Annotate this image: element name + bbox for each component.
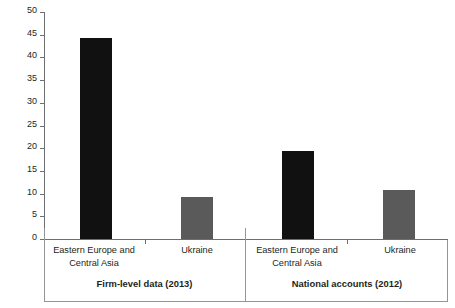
bar-firm-level-eastern-europe-central-asia	[80, 38, 112, 239]
plot-area: 50 45 40 35 30 25 20 15 10 5 0	[44, 12, 448, 240]
y-tick-50: 50	[40, 12, 44, 13]
category-label-band: Eastern Europe and Central Asia Ukraine …	[44, 240, 448, 302]
bar-firm-level-ukraine	[181, 197, 213, 239]
category-label-ukraine-right: Ukraine	[360, 244, 440, 257]
group-firm-level-data: Eastern Europe and Central Asia Ukraine …	[44, 240, 245, 302]
category-label-eastern-europe-central-asia-right: Eastern Europe and Central Asia	[240, 244, 354, 269]
category-label-line1: Ukraine	[181, 245, 213, 255]
y-tick-label-30: 30	[27, 96, 37, 106]
category-label-line1: Ukraine	[384, 245, 416, 255]
group-national-accounts: Eastern Europe and Central Asia Ukraine …	[246, 240, 448, 302]
y-tick-30: 30	[40, 103, 44, 104]
category-label-line1: Eastern Europe and	[53, 245, 135, 255]
y-tick-label-5: 5	[32, 209, 37, 219]
bar-national-accounts-eastern-europe-central-asia	[282, 151, 314, 239]
category-label-eastern-europe-central-asia-left: Eastern Europe and Central Asia	[37, 244, 151, 269]
bar-national-accounts-ukraine	[383, 190, 415, 239]
y-tick-label-40: 40	[27, 50, 37, 60]
group-title-firm-level-data: Firm-level data (2013)	[44, 278, 245, 289]
category-label-line2: Central Asia	[272, 258, 322, 268]
y-tick-label-0: 0	[32, 232, 37, 242]
y-tick-label-35: 35	[27, 73, 37, 83]
bar-chart: Labor productivity (thousands of US$ per…	[0, 0, 455, 308]
y-tick-25: 25	[40, 126, 44, 127]
y-tick-label-45: 45	[27, 28, 37, 38]
category-label-line2: Central Asia	[69, 258, 119, 268]
y-tick-40: 40	[40, 57, 44, 58]
y-tick-label-25: 25	[27, 119, 37, 129]
y-axis-line	[44, 12, 45, 240]
y-tick-10: 10	[40, 194, 44, 195]
y-tick-label-20: 20	[27, 141, 37, 151]
y-tick-5: 5	[40, 216, 44, 217]
y-tick-20: 20	[40, 148, 44, 149]
y-tick-35: 35	[40, 80, 44, 81]
y-tick-15: 15	[40, 171, 44, 172]
y-tick-45: 45	[40, 35, 44, 36]
category-label-ukraine-left: Ukraine	[157, 244, 237, 257]
y-tick-label-10: 10	[27, 187, 37, 197]
category-label-line1: Eastern Europe and	[256, 245, 338, 255]
category-labels-left: Eastern Europe and Central Asia Ukraine	[44, 244, 245, 276]
y-tick-label-50: 50	[27, 5, 37, 15]
y-tick-label-15: 15	[27, 164, 37, 174]
category-labels-right: Eastern Europe and Central Asia Ukraine	[246, 244, 448, 276]
group-title-national-accounts: National accounts (2012)	[246, 278, 448, 289]
